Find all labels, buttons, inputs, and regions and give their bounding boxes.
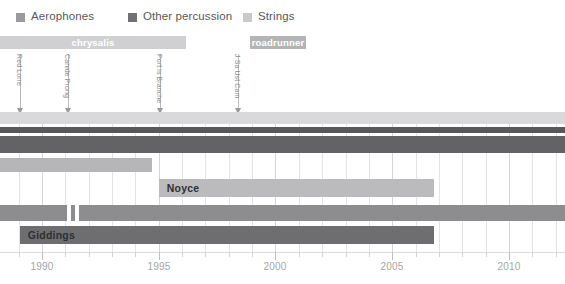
axis-tick-major bbox=[42, 252, 43, 260]
legend-swatch-icon bbox=[128, 13, 137, 22]
legend-item[interactable]: Other percussion bbox=[128, 8, 232, 26]
axis-tick-label: 2005 bbox=[380, 262, 403, 272]
axis-tick-minor bbox=[462, 252, 463, 257]
timeline-bar[interactable]: Noyce bbox=[159, 179, 434, 197]
axis-tick-minor bbox=[252, 252, 253, 257]
timeline-bar[interactable] bbox=[79, 205, 565, 221]
timeline-bar[interactable]: Giddings bbox=[20, 226, 434, 244]
axis-tick-major bbox=[275, 252, 276, 260]
work-bar-label: chrysalis bbox=[72, 38, 115, 48]
work-bar[interactable]: roadrunner bbox=[250, 36, 306, 49]
axis-tick-minor bbox=[19, 252, 20, 257]
axis-tick-minor bbox=[416, 252, 417, 257]
axis-tick-minor bbox=[182, 252, 183, 257]
axis-tick-major bbox=[392, 252, 393, 260]
axis-tick-minor bbox=[65, 252, 66, 257]
axis-tick-label: 1990 bbox=[30, 262, 53, 272]
timeline-track bbox=[0, 136, 565, 153]
event-annotation[interactable]: Red Lorre bbox=[20, 54, 21, 116]
event-annotations: Red LorreCahide ProngPort is BrancheJ Sa… bbox=[0, 54, 565, 116]
axis-tick-minor bbox=[205, 252, 206, 257]
timeline-track bbox=[0, 158, 565, 172]
timeline-chart: AerophonesOther percussionStrings chrysa… bbox=[0, 0, 565, 284]
axis-tick-minor bbox=[299, 252, 300, 257]
timeline-track bbox=[0, 127, 565, 133]
legend-item-label: Other percussion bbox=[143, 11, 232, 23]
work-bar[interactable]: chrysalis bbox=[0, 36, 186, 49]
axis-tick-minor bbox=[439, 252, 440, 257]
work-bar-label: roadrunner bbox=[252, 38, 305, 48]
axis-tick-minor bbox=[369, 252, 370, 257]
axis-tick-label: 1995 bbox=[147, 262, 170, 272]
timeline-bar[interactable] bbox=[0, 127, 565, 133]
axis-tick-label: 2010 bbox=[497, 262, 520, 272]
work-bars: chrysalisroadrunner bbox=[0, 36, 565, 49]
timeline-bar[interactable] bbox=[0, 158, 152, 172]
axis-tick-minor bbox=[135, 252, 136, 257]
plot-area: NoyceGiddings bbox=[0, 112, 565, 252]
timeline-track: Giddings bbox=[0, 226, 565, 244]
axis-tick-minor bbox=[486, 252, 487, 257]
axis-tick-minor bbox=[112, 252, 113, 257]
annotation-label: J Sa Ust Cam bbox=[234, 54, 241, 98]
timeline-track bbox=[0, 205, 565, 221]
legend-item-label: Aerophones bbox=[31, 11, 94, 23]
annotation-label: Cahide Prong bbox=[64, 54, 71, 98]
axis-tick-major bbox=[509, 252, 510, 260]
timeline-bar[interactable] bbox=[0, 136, 565, 153]
legend-swatch-icon bbox=[243, 13, 252, 22]
timeline-track bbox=[0, 112, 565, 124]
x-axis: 19901995200020052010 bbox=[0, 252, 565, 284]
axis-tick-minor bbox=[532, 252, 533, 257]
axis-tick-minor bbox=[89, 252, 90, 257]
legend: AerophonesOther percussionStrings bbox=[0, 8, 565, 28]
timeline-bar-label: Giddings bbox=[28, 230, 75, 241]
axis-tick-minor bbox=[556, 252, 557, 257]
timeline-bar[interactable] bbox=[0, 205, 67, 221]
event-annotation[interactable]: Port is Branche bbox=[160, 54, 161, 116]
axis-tick-label: 2000 bbox=[263, 262, 286, 272]
timeline-track: Noyce bbox=[0, 179, 565, 197]
event-annotation[interactable]: Cahide Prong bbox=[68, 54, 69, 116]
timeline-bar[interactable] bbox=[71, 205, 75, 221]
event-annotation[interactable]: J Sa Ust Cam bbox=[238, 54, 239, 116]
legend-item[interactable]: Aerophones bbox=[16, 8, 94, 26]
annotation-label: Red Lorre bbox=[16, 54, 23, 86]
axis-tick-minor bbox=[322, 252, 323, 257]
axis-tick-minor bbox=[229, 252, 230, 257]
axis-tick-minor bbox=[346, 252, 347, 257]
axis-tick-major bbox=[159, 252, 160, 260]
legend-item-label: Strings bbox=[258, 11, 295, 23]
annotation-label: Port is Branche bbox=[156, 54, 163, 103]
timeline-bar[interactable] bbox=[0, 112, 565, 124]
legend-item[interactable]: Strings bbox=[243, 8, 295, 26]
timeline-bar-label: Noyce bbox=[167, 183, 200, 194]
legend-swatch-icon bbox=[16, 13, 25, 22]
axis-line bbox=[0, 252, 565, 253]
